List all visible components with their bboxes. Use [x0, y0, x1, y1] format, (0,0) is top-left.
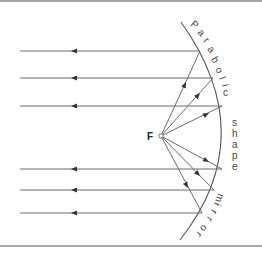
- mirror-label-shape: s h a p e: [232, 117, 238, 172]
- svg-text:b: b: [209, 55, 222, 66]
- incident-ray-3: [161, 106, 222, 136]
- svg-text:o: o: [213, 65, 226, 75]
- arrow-left-icon: [71, 49, 77, 54]
- incident-rays: [161, 51, 222, 213]
- mirror-label-parabolic: P a r a b o l i c: [189, 18, 232, 98]
- arrow-left-icon: [71, 188, 77, 193]
- parabolic-mirror: [180, 22, 221, 240]
- incident-ray-1: [161, 51, 200, 136]
- reflected-rays: [20, 49, 222, 216]
- svg-text:r: r: [204, 215, 215, 225]
- svg-text:a: a: [205, 44, 217, 55]
- svg-text:l: l: [217, 75, 228, 81]
- focus-label: F: [147, 131, 153, 142]
- svg-text:r: r: [201, 35, 212, 45]
- svg-text:h: h: [232, 128, 238, 139]
- arrow-left-icon: [71, 211, 77, 216]
- parabolic-mirror-diagram: F P a r a b o l i c s h a p e m i r r o …: [0, 0, 262, 261]
- focus-point: [159, 134, 163, 138]
- svg-text:c: c: [223, 87, 228, 98]
- svg-text:s: s: [232, 117, 237, 128]
- svg-text:e: e: [232, 161, 238, 172]
- arrow-left-icon: [71, 104, 77, 109]
- svg-text:a: a: [196, 27, 208, 39]
- arrow-left-icon: [71, 167, 77, 172]
- arrow-icon: [203, 157, 211, 164]
- svg-text:r: r: [194, 230, 205, 241]
- arrow-icon: [181, 81, 188, 89]
- incident-ray-5: [161, 136, 214, 190]
- arrow-left-icon: [71, 76, 77, 81]
- svg-text:r: r: [208, 208, 220, 217]
- incident-ray-2: [161, 78, 213, 136]
- svg-text:p: p: [232, 150, 238, 161]
- arrow-icon: [203, 111, 211, 118]
- mirror-label-mirror: m i r r o r: [194, 192, 227, 240]
- svg-text:P: P: [189, 18, 201, 31]
- svg-text:a: a: [232, 139, 238, 150]
